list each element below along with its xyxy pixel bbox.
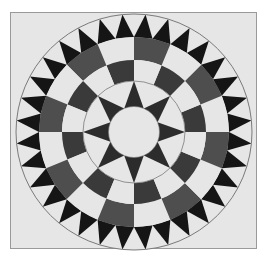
eight-point-star — [83, 81, 185, 183]
quilt-mosaic — [0, 0, 265, 260]
